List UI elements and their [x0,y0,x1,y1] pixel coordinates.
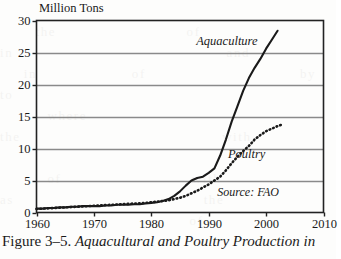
y-tick-label: 15 [2,110,31,125]
x-tick-label: 1970 [79,217,111,232]
series-label-aquaculture: Aquaculture [196,34,257,49]
x-tick-label: 1990 [194,217,226,232]
line-chart-svg [0,0,336,232]
figure-caption: Figure 3–5. Aquacultural and Poultry Pro… [2,233,336,250]
y-tick-label: 30 [2,14,31,29]
gridlines-group [37,54,324,182]
caption-figure-number: Figure 3–5. [2,233,75,249]
caption-title-text: Aquacultural and Poultry Production in [75,233,315,249]
source-note: Source: FAO [217,185,279,200]
x-tick-label: 1980 [136,217,168,232]
series-label-poultry: Poultry [228,147,266,162]
y-tick-label: 25 [2,46,31,61]
y-tick-label: 10 [2,142,31,157]
y-tick-label: 5 [2,174,31,189]
plot-frame-border [37,21,324,213]
x-tick-label: 2000 [251,217,283,232]
x-tick-label: 1960 [22,217,54,232]
x-tick-label: 2010 [309,217,341,232]
chart-plot-area: Million Tons 051015202530 19601970198019… [0,0,336,232]
y-tick-label: 20 [2,78,31,93]
